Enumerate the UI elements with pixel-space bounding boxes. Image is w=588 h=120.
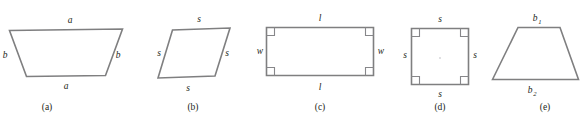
- rhombus-shape: [158, 28, 230, 78]
- label-d-right: s: [473, 50, 477, 60]
- panel-d-square: s s s s (d): [403, 14, 477, 113]
- center-speck: [439, 57, 441, 59]
- quadrilaterals-figure: a a b b (a) s s s s (b) l l w w (c): [0, 0, 588, 120]
- label-e-top-subscript: 1: [538, 18, 541, 25]
- caption-c: (c): [315, 102, 326, 113]
- panel-a-parallelogram: a a b b (a): [3, 15, 123, 113]
- trapezoid-shape: [493, 28, 579, 80]
- label-b-left: s: [157, 48, 161, 58]
- panel-c-rectangle: l l w w (c): [257, 13, 385, 113]
- label-c-left: w: [257, 46, 264, 56]
- label-c-top: l: [319, 13, 322, 23]
- caption-b: (b): [187, 102, 198, 113]
- caption-e: (e): [540, 102, 551, 113]
- panel-e-trapezoid: b 1 b 2 (e): [493, 13, 579, 113]
- caption-a: (a): [42, 102, 53, 113]
- label-d-left: s: [403, 50, 407, 60]
- label-b-top: s: [197, 14, 201, 24]
- label-d-bottom: s: [438, 89, 442, 99]
- label-e-bottom: b: [528, 85, 533, 95]
- label-a-top: a: [68, 15, 73, 25]
- label-e-bottom-subscript: 2: [533, 90, 537, 97]
- label-d-top: s: [438, 14, 442, 24]
- figure-container: a a b b (a) s s s s (b) l l w w (c): [0, 0, 588, 120]
- label-e-top: b: [533, 13, 538, 23]
- label-b-bottom: s: [186, 83, 190, 93]
- parallelogram-shape: [10, 29, 123, 77]
- label-c-bottom: l: [319, 82, 322, 92]
- rectangle-shape: [267, 28, 374, 76]
- label-a-left: b: [3, 50, 8, 60]
- label-c-right: w: [378, 46, 385, 56]
- label-a-bottom: a: [64, 81, 69, 91]
- panel-b-rhombus: s s s s (b): [157, 14, 230, 113]
- label-a-right: b: [116, 50, 121, 60]
- label-b-right: s: [225, 48, 229, 58]
- caption-d: (d): [434, 102, 445, 113]
